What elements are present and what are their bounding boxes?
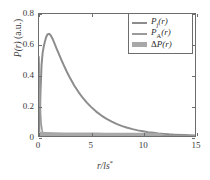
- legend-item[interactable]: PA(r): [132, 28, 188, 39]
- x-tick-label: 0: [36, 140, 41, 150]
- x-tick-top: [92, 14, 93, 17]
- series-line-2: [39, 134, 159, 135]
- y-tick-right: [192, 107, 195, 108]
- y-tick-label: 0: [8, 132, 34, 142]
- y-axis-label-symbol: P(r): [13, 41, 23, 57]
- x-axis-label: r/ls*: [0, 159, 210, 171]
- x-tick: [197, 133, 198, 136]
- y-axis-label-units: (a.u.): [13, 19, 23, 41]
- x-tick: [92, 133, 93, 136]
- x-axis-label-text: r/ls: [97, 161, 110, 171]
- x-tick: [144, 133, 145, 136]
- x-tick: [39, 133, 40, 136]
- legend-item[interactable]: ΔP(r): [132, 39, 188, 50]
- y-tick: [39, 45, 42, 46]
- legend-swatch-line: [132, 33, 147, 35]
- y-tick: [39, 107, 42, 108]
- legend-swatch-band: [132, 42, 147, 47]
- y-tick: [39, 138, 42, 139]
- x-tick-label: 10: [139, 140, 148, 150]
- x-tick-label: 5: [88, 140, 93, 150]
- y-tick-right: [192, 76, 195, 77]
- chart-figure: 051015 00.20.40.60.8 r/ls* P(r) (a.u.) P…: [0, 0, 210, 180]
- x-tick-label: 15: [192, 140, 201, 150]
- y-tick: [39, 76, 42, 77]
- legend-label: ΔP(r): [151, 39, 172, 50]
- y-tick-label: 0.2: [8, 101, 34, 111]
- legend: Pj(r)PA(r)ΔP(r): [128, 13, 193, 54]
- y-tick: [39, 14, 42, 15]
- y-axis-label: P(r) (a.u.): [13, 0, 23, 100]
- y-tick-right: [192, 138, 195, 139]
- x-axis-label-superscript: *: [110, 159, 114, 167]
- x-tick-top: [197, 14, 198, 17]
- legend-swatch-line: [132, 22, 147, 24]
